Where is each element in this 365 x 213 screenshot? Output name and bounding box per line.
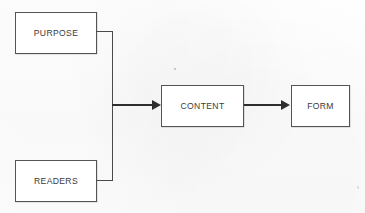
- node-purpose-label: PURPOSE: [34, 29, 78, 38]
- connector-bus-to-content: [112, 104, 153, 106]
- scan-speck-artifact: [174, 68, 176, 70]
- connector-purpose-to-bus: [96, 31, 113, 32]
- node-form-label: FORM: [307, 102, 334, 111]
- arrowhead-to-content-icon: [152, 100, 161, 110]
- node-readers-label: READERS: [34, 177, 78, 186]
- node-readers[interactable]: READERS: [15, 160, 97, 202]
- node-content[interactable]: CONTENT: [161, 85, 244, 127]
- connector-readers-to-bus: [96, 180, 113, 181]
- node-purpose[interactable]: PURPOSE: [15, 12, 97, 54]
- flowchart-diagram: PURPOSE READERS CONTENT FORM: [0, 0, 365, 213]
- connector-vertical-bus: [112, 31, 113, 181]
- node-form[interactable]: FORM: [291, 85, 350, 127]
- arrowhead-to-form-icon: [281, 100, 290, 110]
- scan-speck-artifact: [357, 186, 359, 189]
- node-content-label: CONTENT: [181, 102, 225, 111]
- connector-content-to-form: [244, 104, 282, 106]
